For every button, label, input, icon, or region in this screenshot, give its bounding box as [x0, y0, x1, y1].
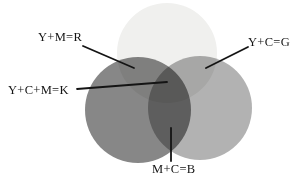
cyan-circle — [148, 56, 252, 160]
label-yellow-cyan-magenta-black: Y+C+M=K — [8, 84, 69, 97]
label-yellow-plus-cyan-green: Y+C=G — [248, 36, 290, 49]
label-yellow-plus-magenta-red: Y+M=R — [38, 31, 82, 44]
cmy-color-mixing-diagram: Y+M=R Y+C=G Y+C+M=K M+C=B — [0, 0, 291, 189]
label-magenta-plus-cyan-blue: M+C=B — [152, 163, 195, 176]
